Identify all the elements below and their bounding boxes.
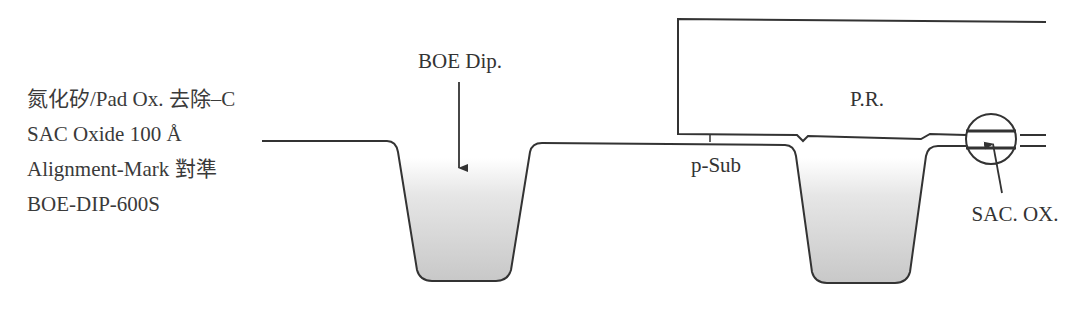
photoresist-label: P.R. — [850, 87, 884, 111]
boe-dip-label: BOE Dip. — [418, 49, 502, 73]
substrate-label: p-Sub — [691, 153, 741, 177]
right-trench-fill — [796, 158, 926, 283]
left-trench-fill — [398, 158, 530, 281]
sac-oxide-label: SAC. OX. — [972, 202, 1059, 226]
sac-oxide-magnifier — [966, 114, 1016, 164]
cross-section-diagram: BOE Dip. P.R. p-Sub SAC. OX. — [0, 0, 1083, 312]
